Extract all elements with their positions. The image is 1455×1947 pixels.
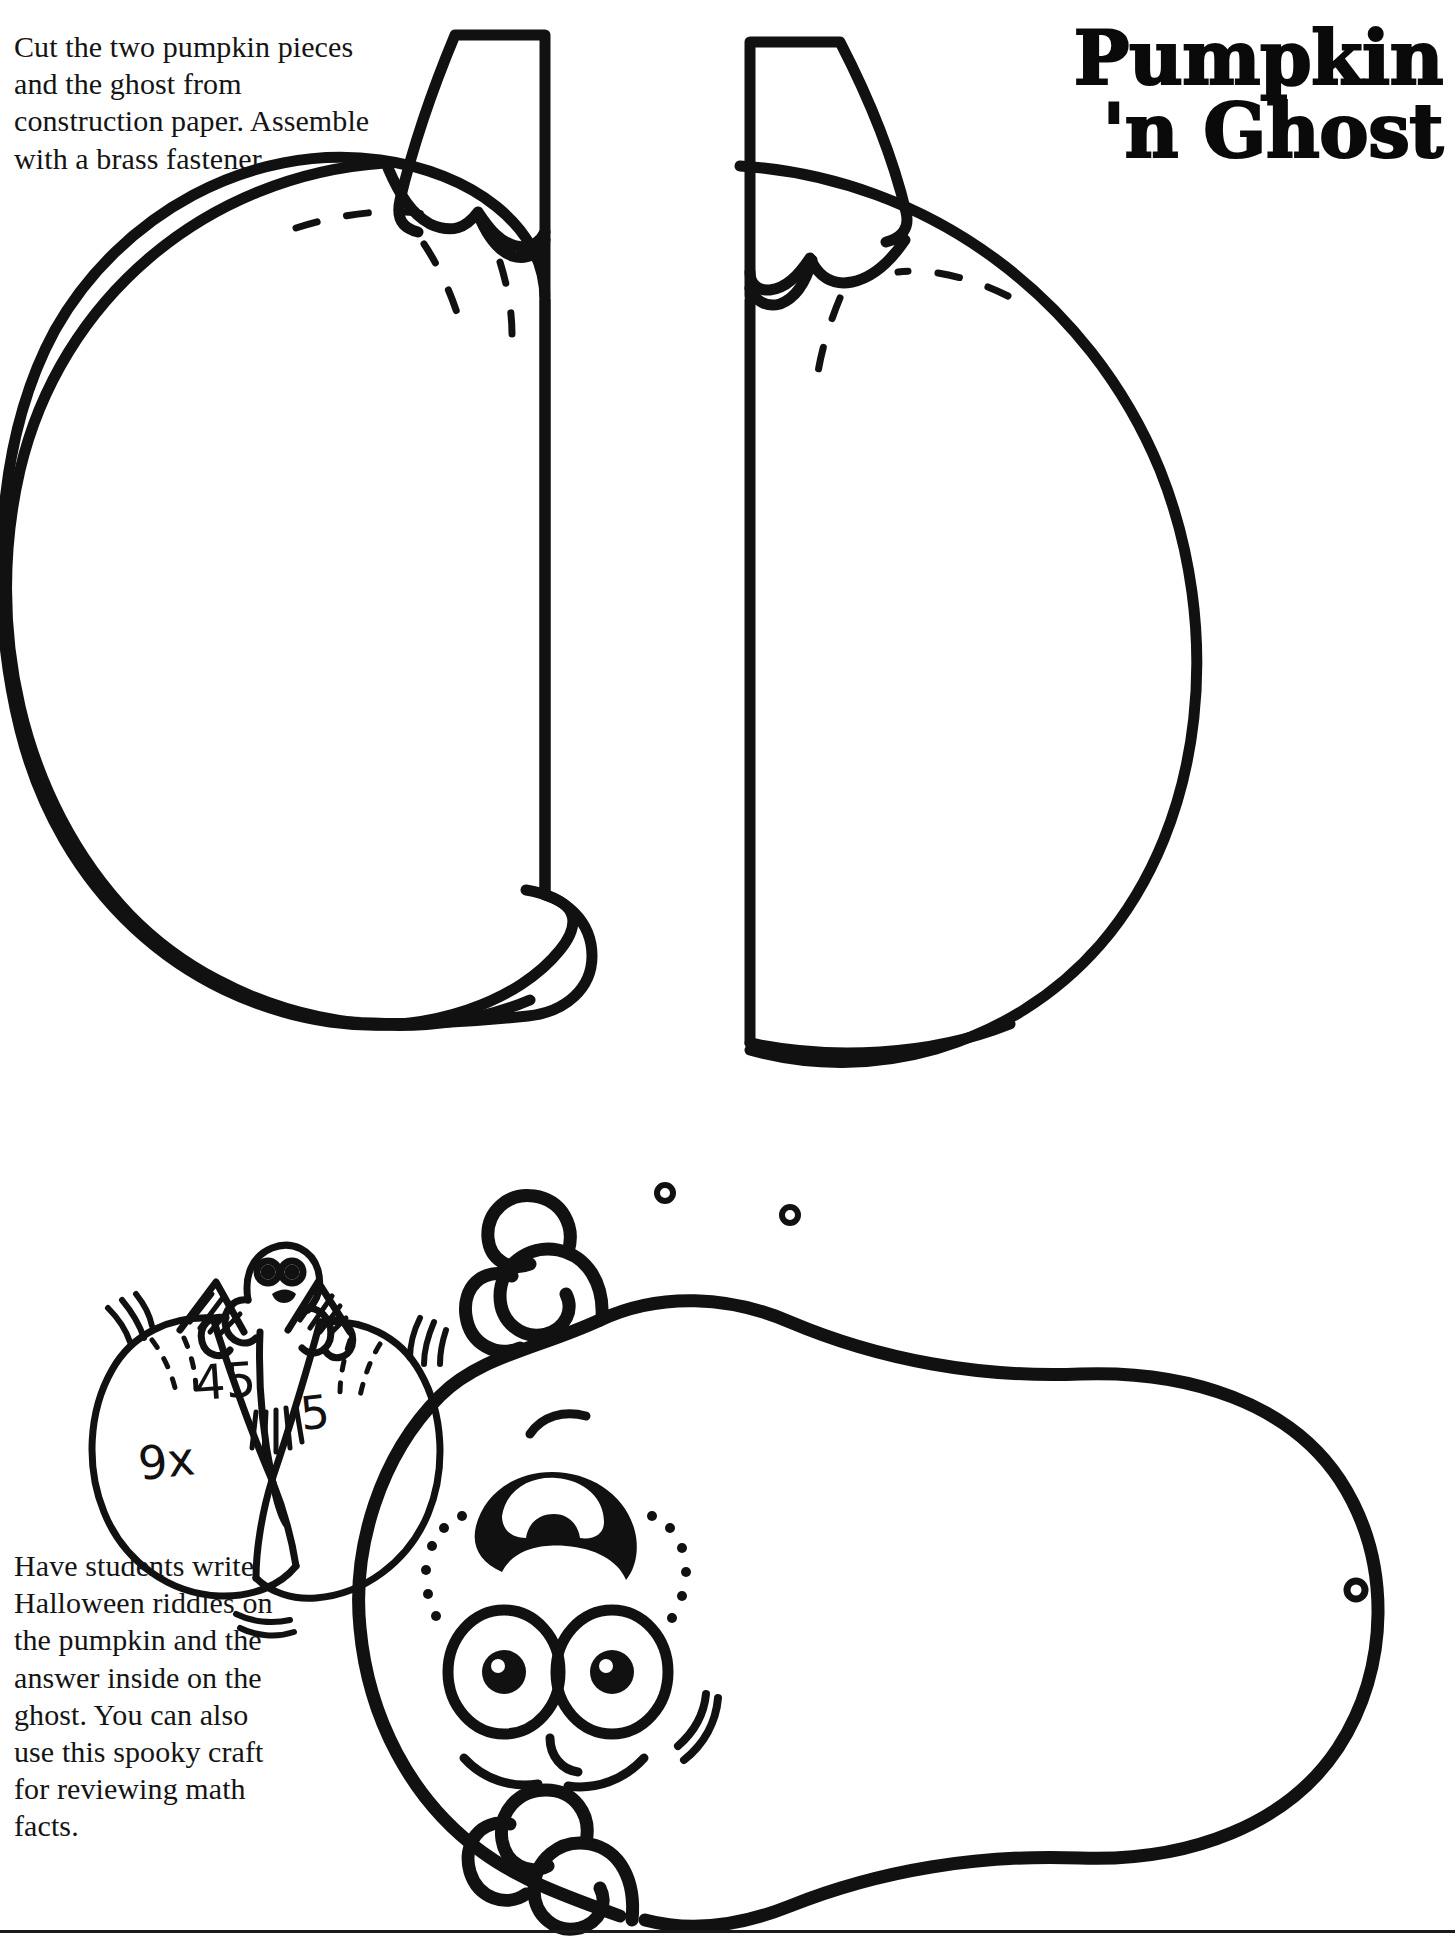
page-title-line-1: Pumpkin: [983, 22, 1443, 95]
ghost-motion-arcs: [464, 1414, 644, 1787]
example-ghost-left-curl2: [201, 1317, 230, 1355]
example-pumpkin-left-cut: [213, 1318, 296, 1566]
ghost-pupil-lower-glint: [599, 1659, 613, 1673]
ghost-bottom-swirl-outer: [468, 1823, 526, 1900]
page-title: Pumpkin 'n Ghost: [983, 22, 1443, 167]
ghost-face-group: [421, 1414, 718, 1787]
ghost-cheek-dots-lower: [647, 1511, 691, 1623]
ghost-mouth: [475, 1472, 637, 1580]
example-ghost-left-curl: [225, 1300, 256, 1343]
ghost-pupil-upper: [482, 1650, 526, 1694]
fastener-hole-ghost: [1347, 1581, 1365, 1599]
top-instruction-text: Cut the two pumpkin pieces and the ghost…: [14, 28, 374, 177]
worksheet-page: Cut the two pumpkin pieces and the ghost…: [0, 0, 1455, 1947]
ghost-smile-lines: [678, 1694, 718, 1760]
ghost-bottom-swirl: [534, 1843, 633, 1929]
footer-divider: [0, 1930, 1455, 1933]
example-left-ribs: [152, 1338, 196, 1392]
example-ghost-tail: [260, 1332, 287, 1524]
example-ghost-body: [247, 1245, 320, 1310]
ghost-eye-lower-outline: [556, 1610, 668, 1734]
example-label-center: 45: [193, 1351, 258, 1411]
ghost-mouth-inner: [502, 1478, 604, 1539]
pumpkin-right-outer-curve: [740, 166, 1197, 1062]
ghost-top-swirl-inner: [488, 1195, 570, 1266]
ghost-top-swirl: [500, 1249, 602, 1335]
ghost-head-outline: [359, 1320, 620, 1916]
example-motion-lines-right: [410, 1318, 446, 1364]
example-pumpkin-left-stem: [180, 1282, 244, 1332]
example-ghost-mouth: [272, 1290, 296, 1304]
pumpkin-left-stem: [399, 35, 545, 296]
ghost-body-outline: [600, 1301, 1378, 1926]
pumpkin-left-rib-dashes: [296, 212, 512, 334]
pumpkin-left-outer-curve: [7, 163, 530, 1025]
example-right-ribs: [340, 1340, 380, 1396]
pumpkin-right-stem: [750, 42, 907, 296]
pumpkin-right-bottom-edge: [750, 1024, 1010, 1053]
pumpkin-right-scallop-mid: [750, 260, 812, 305]
pumpkin-left-top-scallops: [388, 168, 545, 247]
example-ghost-shading: [252, 1406, 302, 1452]
bottom-instruction-text: Have students write Halloween riddles on…: [14, 1547, 282, 1845]
fastener-hole-right: [782, 1207, 798, 1223]
pumpkin-right-top-scallops: [750, 240, 905, 290]
example-label-right: 5: [298, 1384, 333, 1441]
example-pumpkin-right-cut: [256, 1322, 320, 1578]
example-motion-lines-left: [108, 1294, 152, 1342]
ghost-top-swirl-outer: [465, 1274, 520, 1352]
example-ghost-eyes: [257, 1261, 303, 1283]
example-pumpkin-right-stem: [288, 1282, 350, 1332]
example-ghost-right-curl: [302, 1308, 331, 1353]
example-left-stem-hatch: [190, 1294, 240, 1334]
pumpkin-left-body-outline: [1, 157, 573, 1025]
ghost-cheek-dots-upper: [421, 1511, 467, 1621]
example-pumpkin-right: [256, 1321, 440, 1598]
ghost-pupil-lower: [590, 1650, 634, 1694]
ghost-eye-upper-outline: [448, 1610, 560, 1734]
example-label-left: 9x: [136, 1431, 198, 1491]
pumpkin-left-bottom-tab: [350, 890, 592, 1024]
example-right-stem-hatch: [300, 1292, 346, 1334]
pumpkin-right-rib-dashes: [818, 271, 1008, 372]
page-title-line-2: 'n Ghost: [983, 95, 1443, 168]
example-ghost-right-curl2: [326, 1320, 353, 1358]
ghost-pupil-upper-glint: [491, 1659, 505, 1673]
pumpkin-left-scallop-mid: [478, 214, 545, 257]
fastener-hole-left: [657, 1185, 673, 1201]
ghost-bottom-swirl-inner: [501, 1790, 587, 1870]
